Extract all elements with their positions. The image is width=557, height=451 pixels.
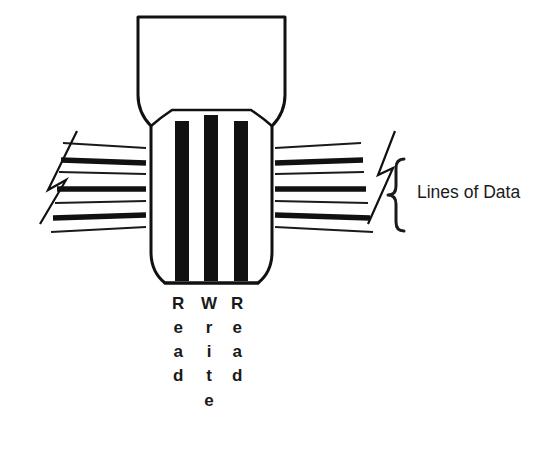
gap-label-write-char-2: i xyxy=(207,340,212,364)
lines-of-data-annotation: Lines of Data xyxy=(417,182,520,203)
gap-bar-write xyxy=(204,115,218,281)
left-data-lines xyxy=(40,131,146,232)
gap-label-write-char-1: r xyxy=(206,316,213,340)
right-line-sep-2 xyxy=(275,201,368,203)
right-line-boundary-bottom xyxy=(275,227,373,232)
diagram-canvas: R e a d W r i t e R e a d Lines of Data xyxy=(0,0,557,451)
gap-label-write-char-3: t xyxy=(206,364,212,388)
left-line-sep-2 xyxy=(55,201,146,203)
left-break-zigzag-icon xyxy=(40,131,77,224)
gap-label-read-1-char-1: e xyxy=(173,316,182,340)
right-data-lines xyxy=(275,131,395,232)
left-data-track-1 xyxy=(61,160,146,163)
gap-bar-read-1 xyxy=(175,121,189,281)
gap-label-write-char-4: e xyxy=(204,389,213,413)
gap-label-read-2-char-1: e xyxy=(232,316,241,340)
right-data-track-3 xyxy=(275,215,370,218)
left-data-track-3 xyxy=(53,215,146,218)
left-line-boundary-bottom xyxy=(51,227,146,232)
left-line-sep-1 xyxy=(59,172,146,174)
gap-label-read-2-char-0: R xyxy=(231,292,243,316)
gap-label-read-1-char-3: d xyxy=(173,364,183,388)
gap-label-write: W r i t e xyxy=(201,292,217,413)
gap-label-read-1-char-2: a xyxy=(173,340,182,364)
right-line-sep-1 xyxy=(275,172,364,174)
gap-label-read-2-char-3: d xyxy=(232,364,242,388)
right-break-zigzag-icon xyxy=(368,131,395,224)
right-data-track-1 xyxy=(275,160,363,163)
left-line-boundary-top xyxy=(63,143,146,148)
gap-label-read-1-char-0: R xyxy=(172,292,184,316)
gap-label-read-2: R e a d xyxy=(231,292,243,389)
right-line-boundary-top xyxy=(275,143,361,148)
gap-bar-read-2 xyxy=(234,121,248,281)
gap-label-read-2-char-2: a xyxy=(232,340,241,364)
gap-label-write-char-0: W xyxy=(201,292,217,316)
tape-head-diagram xyxy=(0,0,557,451)
gap-label-read-1: R e a d xyxy=(172,292,184,389)
